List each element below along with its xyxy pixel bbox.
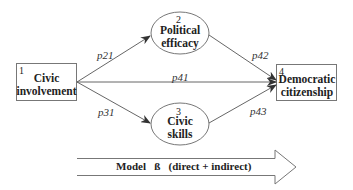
path-label-p41: p41 [172,72,189,83]
node-2-label-line2: efficacy [150,37,210,50]
node-2-label: Political efficacy [150,24,210,50]
node-4-label-line2: citizenship [276,86,338,99]
path-label-p31: p31 [98,107,115,118]
node-2-label-line1: Political [150,24,210,37]
node-3-label: Civic skills [150,115,210,141]
path-label-p21: p21 [97,50,114,61]
model-arrow-label: Model ß (direct + indirect) [116,160,251,172]
node-3-label-line2: skills [150,128,210,141]
path-label-p42: p42 [252,50,269,61]
node-1-label-line1: Civic [16,72,77,85]
node-3-label-line1: Civic [150,115,210,128]
node-4-label: Democratic citizenship [276,73,338,99]
arrow-p43 [209,85,276,123]
node-4-label-line1: Democratic [276,73,338,86]
path-label-p43: p43 [250,106,267,117]
node-1-label-line2: involvement [16,85,77,98]
node-1-label: Civic involvement [16,72,77,98]
